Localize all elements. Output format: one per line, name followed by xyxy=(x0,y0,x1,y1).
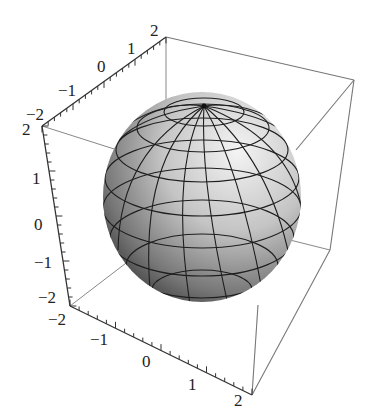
tick-label: 0 xyxy=(34,215,43,234)
tick-label: −2 xyxy=(48,310,66,329)
sphere-pole xyxy=(202,104,207,109)
tick-label: −1 xyxy=(58,81,76,100)
tick-label: 1 xyxy=(32,169,41,188)
tick-label: 2 xyxy=(234,391,243,410)
tick-label: −1 xyxy=(34,253,52,272)
bottom-axis-labels: −2 −1 0 1 2 xyxy=(48,310,243,410)
tick-label: −1 xyxy=(90,330,108,349)
tick-label: 1 xyxy=(127,39,136,58)
tick-label: 0 xyxy=(97,57,106,76)
sphere-surface xyxy=(103,92,302,310)
sphere-3d-plot: −2 −1 0 1 2 2 1 0 −1 −2 −2 −1 0 1 2 xyxy=(0,0,374,414)
tick-label: 2 xyxy=(22,120,31,139)
tick-label: 0 xyxy=(142,352,151,371)
left-axis-labels: 2 1 0 −1 −2 xyxy=(22,120,56,307)
tick-label: 1 xyxy=(188,375,197,394)
tick-label: −2 xyxy=(38,288,56,307)
top-axis-labels: −2 −1 0 1 2 xyxy=(26,21,159,124)
tick-label: 2 xyxy=(150,21,159,40)
